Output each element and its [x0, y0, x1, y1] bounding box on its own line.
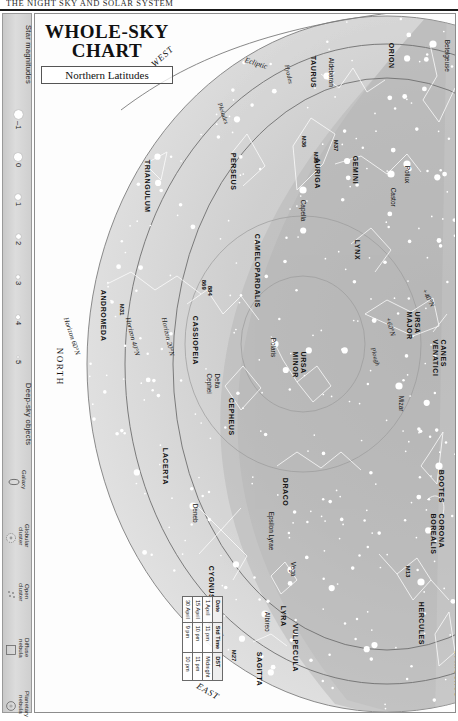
magnitude-label: 0 [14, 163, 23, 167]
magnitude-legend-item: 4 [3, 298, 33, 342]
date-table-header-cell: Date [213, 597, 223, 623]
magnitude-dot-icon [14, 110, 23, 119]
deep-sky-legend-item: Open cluster [3, 562, 33, 622]
title-subtitle: Northern Latitudes [41, 66, 173, 84]
date-table-row: 1 April11 pmMidnight [203, 597, 213, 681]
date-table-row: 15 April10 pm11 pm [193, 597, 203, 681]
magnitude-dot-icon [15, 194, 21, 200]
diffuse-nebula-icon [5, 642, 17, 654]
magnitude-label: –1 [14, 121, 23, 129]
magnitude-legend-item: 1 [3, 178, 33, 222]
deep-sky-legend-label: Globular cluster [17, 524, 30, 547]
deep-sky-legend-item: Globular cluster [3, 506, 33, 566]
date-table-cell: 10 pm [193, 622, 203, 653]
magnitude-dot-icon [16, 234, 21, 239]
date-table-cell: 1 April [203, 597, 213, 623]
header-rule [0, 9, 458, 11]
magnitude-legend-item: 2 [3, 218, 33, 262]
magnitude-dot-icon [14, 153, 22, 161]
date-table-cell: 15 April [193, 597, 203, 623]
sky-chart[interactable]: WHOLE-SKY CHART Northern Latitudes ORION… [34, 13, 456, 713]
date-table-cell: 10 pm [183, 653, 193, 681]
magnitude-dot-icon [16, 275, 20, 279]
magnitude-label: 2 [14, 241, 23, 245]
deep-sky-legend-item: Planetary nebula [3, 674, 33, 721]
date-time-table: DateStd TimeDST 1 April11 pmMidnight15 A… [182, 596, 223, 681]
magnitude-label: 4 [14, 321, 23, 325]
deep-sky-objects-title: Deep-sky objects [3, 372, 33, 456]
globular-cluster-icon [5, 530, 17, 542]
magnitude-label: 1 [14, 202, 23, 206]
date-table-cell: 11 pm [203, 622, 213, 653]
magnitude-label: 5 [14, 360, 23, 364]
magnitude-dot-icon [17, 356, 19, 358]
date-table-cell: 11 pm [193, 653, 203, 681]
deep-sky-legend-item: Diffuse nebula [3, 618, 33, 678]
legend-rail: Star magnitudes –1012345 Deep-sky object… [2, 13, 32, 713]
title-line-2: CHART [41, 41, 173, 60]
deep-sky-legend-item: Galaxy [3, 450, 33, 510]
star-magnitudes-title: Star magnitudes [3, 18, 33, 92]
deep-sky-legend-label: Galaxy [20, 470, 27, 489]
deep-sky-legend-label: Planetary nebula [17, 691, 30, 717]
open-cluster-icon [5, 586, 17, 598]
title-block: WHOLE-SKY CHART Northern Latitudes [41, 22, 173, 84]
date-table-row: 30 April9 pm10 pm [183, 597, 193, 681]
date-table-cell: 30 April [183, 597, 193, 623]
magnitude-label: 3 [14, 281, 23, 285]
magnitude-legend-item: 0 [3, 138, 33, 182]
magnitude-legend-item: 3 [3, 258, 33, 302]
deep-sky-legend-label: Open cluster [17, 583, 30, 601]
date-table-cell: 9 pm [183, 622, 193, 653]
sky-map-graphic [35, 14, 456, 713]
date-table-header-cell: Std Time [213, 622, 223, 653]
planetary-nebula-icon [5, 698, 17, 710]
deep-sky-legend-label: Diffuse nebula [17, 638, 30, 657]
date-table-header-row: DateStd TimeDST [213, 597, 223, 681]
magnitude-legend-item: –1 [3, 98, 33, 142]
running-head: THE NIGHT SKY AND SOLAR SYSTEM [6, 0, 446, 9]
galaxy-ellipse-icon [8, 474, 20, 486]
title-line-1: WHOLE-SKY [41, 22, 173, 41]
magnitude-dot-icon [16, 315, 19, 318]
date-table-cell: Midnight [203, 653, 213, 681]
date-table-header-cell: DST [213, 653, 223, 681]
